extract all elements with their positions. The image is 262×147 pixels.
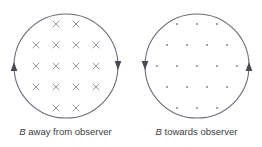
field-diagram-towards xyxy=(131,0,262,126)
field-diagram-away xyxy=(0,0,131,126)
current-arrow-right-head xyxy=(115,61,122,70)
magnetic-field-figure: B away from observer xyxy=(0,0,262,147)
field-markers-into-page xyxy=(33,21,99,111)
current-arrow-left-head xyxy=(142,61,149,70)
current-arrow-left-head xyxy=(11,62,18,71)
current-direction-arrows xyxy=(11,61,122,71)
caption-text-left: away from observer xyxy=(26,126,112,137)
current-arrow-right-head xyxy=(246,62,253,71)
panel-field-away: B away from observer xyxy=(0,0,131,147)
caption-text-right: towards observer xyxy=(162,126,238,137)
current-loop-circle xyxy=(14,14,118,118)
caption-field-towards: B towards observer xyxy=(131,126,262,138)
caption-field-away: B away from observer xyxy=(0,126,131,138)
field-markers-out-of-page xyxy=(156,23,238,109)
panel-field-towards: B towards observer xyxy=(131,0,262,147)
